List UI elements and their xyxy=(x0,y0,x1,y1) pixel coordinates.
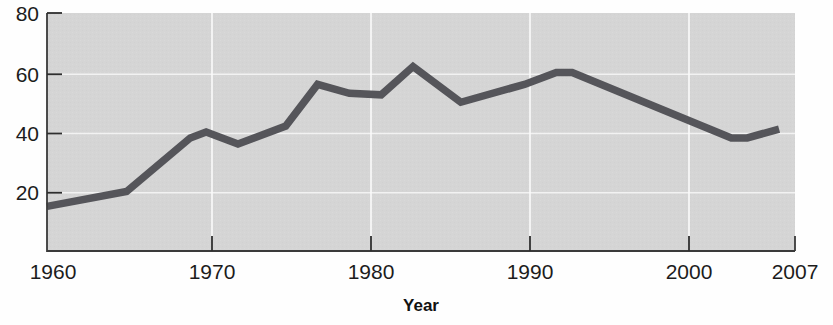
x-tick-label-1960: 1960 xyxy=(30,260,77,283)
line-chart-figure: 80 60 40 20 1960 1970 1980 1990 2000 200… xyxy=(0,0,833,325)
plot-area-texture xyxy=(47,13,795,251)
y-tick-label-40: 40 xyxy=(16,122,39,145)
x-axis-tick-labels: 1960 1970 1980 1990 2000 2007 xyxy=(30,260,819,283)
x-tick-label-1980: 1980 xyxy=(348,260,395,283)
x-axis-title: Year xyxy=(403,296,439,315)
y-tick-label-60: 60 xyxy=(16,63,39,86)
x-tick-label-1990: 1990 xyxy=(507,260,554,283)
y-axis-tick-labels: 80 60 40 20 xyxy=(16,2,39,204)
x-tick-label-1970: 1970 xyxy=(189,260,236,283)
chart-canvas: 80 60 40 20 1960 1970 1980 1990 2000 200… xyxy=(0,0,833,325)
x-tick-label-2007: 2007 xyxy=(772,260,819,283)
x-tick-label-2000: 2000 xyxy=(666,260,713,283)
y-tick-label-80: 80 xyxy=(16,2,39,25)
y-tick-label-20: 20 xyxy=(16,181,39,204)
